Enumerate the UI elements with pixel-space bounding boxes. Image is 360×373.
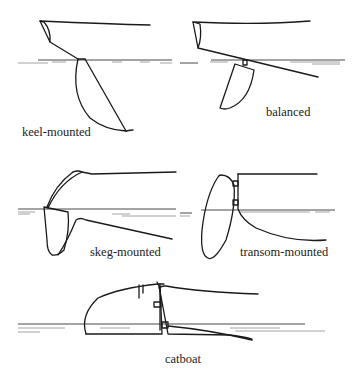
tiller-fitting [139,285,143,298]
rudder-blade [202,175,235,259]
deck-line [73,171,176,174]
label-transom-mounted: transom-mounted [240,245,328,260]
rudder-blade [44,207,69,255]
keel-mounted-drawing [18,21,172,131]
deck-line [40,21,150,25]
transom-overhang [47,172,82,208]
catboat-drawing [18,282,325,340]
water-dashes [18,328,325,332]
rudder-blade [76,59,126,131]
transom [193,22,201,48]
hull-bottom [238,174,326,241]
label-skeg-mounted: skeg-mounted [90,245,161,260]
water-dashes [18,212,176,216]
label-catboat: catboat [165,352,201,367]
water-dashes [180,212,330,216]
rudder-types-diagram [0,0,360,373]
skeg-mounted-drawing [18,171,176,255]
rudder-bottom [86,284,162,334]
rudder-blade [220,64,254,109]
deck-line [193,21,310,23]
waterline [180,210,335,213]
hull-bottom [198,48,318,77]
keel-tip [126,130,133,131]
balanced-drawing [180,21,345,109]
label-keel-mounted: keel-mounted [22,125,91,140]
hull-bottom [50,42,85,59]
rudder-curve [85,284,165,334]
waterline [180,60,345,63]
water-dashes [210,62,340,64]
rudder-post [243,60,247,65]
water-dashes [18,62,172,63]
deck-line [159,286,258,294]
transom [40,21,50,42]
label-balanced: balanced [266,105,310,120]
